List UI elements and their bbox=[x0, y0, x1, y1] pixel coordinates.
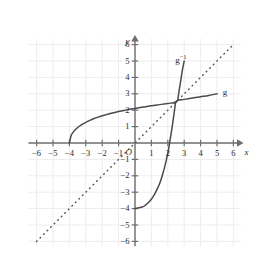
y-tick-label: 3 bbox=[125, 89, 129, 98]
x-tick-label: 5 bbox=[215, 149, 219, 158]
axes bbox=[28, 35, 243, 246]
y-tick-label: 2 bbox=[125, 106, 129, 115]
coordinate-plane bbox=[0, 0, 261, 271]
x-tick-label: 2 bbox=[166, 149, 170, 158]
y-axis-arrowhead bbox=[131, 35, 139, 42]
curve-label-text: g bbox=[223, 87, 228, 97]
y-tick-label: −2 bbox=[120, 171, 129, 180]
curve-label-exponent: −1 bbox=[180, 53, 187, 60]
y-tick-label: −3 bbox=[120, 188, 129, 197]
y-tick-label: 5 bbox=[125, 57, 129, 66]
y-axis-label: y bbox=[126, 37, 130, 46]
x-tick-label: −6 bbox=[32, 149, 41, 158]
x-tick-label: −2 bbox=[98, 149, 107, 158]
curve-label-g-inverse: g−1 bbox=[175, 54, 186, 65]
x-tick-label: 4 bbox=[198, 149, 202, 158]
curve-label-g: g bbox=[223, 88, 228, 97]
x-axis-label: x bbox=[244, 148, 248, 157]
y-tick-label: 4 bbox=[125, 73, 129, 82]
y-tick-label: −5 bbox=[120, 221, 129, 230]
y-tick-label: −6 bbox=[120, 237, 129, 246]
x-tick-label: −3 bbox=[81, 149, 90, 158]
y-tick-label: −4 bbox=[120, 204, 129, 213]
x-tick-label: −4 bbox=[65, 149, 74, 158]
x-tick-label: 1 bbox=[149, 149, 153, 158]
x-tick-label: 6 bbox=[231, 149, 235, 158]
graph-canvas: −6−5−4−3−2−1123456654321−1−2−3−4−5−6xyOg… bbox=[0, 0, 261, 271]
y-tick-label: 1 bbox=[125, 122, 129, 131]
x-tick-label: 3 bbox=[182, 149, 186, 158]
origin-label: O bbox=[126, 148, 133, 157]
x-tick-label: −5 bbox=[48, 149, 57, 158]
x-axis-arrowhead bbox=[237, 139, 244, 147]
